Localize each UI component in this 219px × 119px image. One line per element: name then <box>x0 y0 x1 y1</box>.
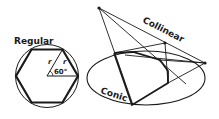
radius-label-2: r <box>63 58 67 66</box>
angle-label: 60° <box>54 68 67 76</box>
radius-label-1: r <box>48 58 52 66</box>
conic-figure: Collinear Conic <box>87 6 207 105</box>
apex-point <box>97 6 100 9</box>
geometry-diagram: Regular r r 60° Collinear Conic <box>0 0 219 119</box>
collinear-point-middle <box>163 41 166 44</box>
collinear-label: Collinear <box>141 15 186 45</box>
regular-hexagon-figure: Regular r r 60° <box>14 36 79 108</box>
collinear-point-right <box>203 61 206 64</box>
regular-label: Regular <box>14 36 54 46</box>
angle-arc <box>50 71 53 76</box>
extension-line-2 <box>165 43 168 83</box>
